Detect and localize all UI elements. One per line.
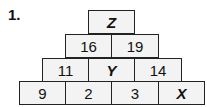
pyramid-cell: 19 <box>111 34 159 58</box>
pyramid-cell: 16 <box>65 34 112 58</box>
problem-number: 1. <box>8 6 21 23</box>
pyramid-cell: 14 <box>134 58 182 82</box>
pyramid-cell-x: X <box>158 81 205 105</box>
pyramid-cell: 2 <box>65 81 112 105</box>
pyramid-cell-z: Z <box>88 10 135 34</box>
pyramid-cell-y: Y <box>88 58 135 82</box>
pyramid-cell: 11 <box>42 58 89 82</box>
pyramid-cell: 9 <box>19 81 66 105</box>
pyramid-cell: 3 <box>111 81 159 105</box>
